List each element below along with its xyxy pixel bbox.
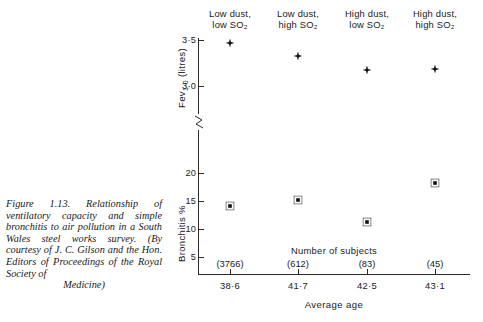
scatter-plot: 3·5 3·0 20 15 10 5 Fev1·0 (litres) Bronc… — [0, 0, 483, 322]
y-tick-label-bronchitis-20: 20 — [185, 168, 196, 178]
number-of-subjects-2: (83) — [332, 258, 402, 269]
data-point-fev-3 — [431, 65, 440, 74]
x-tick-3 — [435, 269, 436, 274]
column-header-3-line-0: High dust, — [392, 8, 478, 19]
number-of-subjects-1: (612) — [263, 258, 333, 269]
number-of-subjects-0: (3766) — [195, 258, 265, 269]
data-point-bronchitis-3 — [431, 179, 440, 188]
y-axis-title-fev-unit: (litres) — [176, 48, 187, 80]
x-tick-label-3: 43·1 — [400, 280, 470, 291]
column-header-3-line-1: high SO₂ — [392, 19, 478, 30]
data-point-fev-0 — [226, 39, 235, 48]
y-axis-title-fev-sub: 1·0 — [182, 80, 189, 91]
figure-1-13: Figure 1.13. Relationship of ventilatory… — [0, 0, 483, 322]
x-tick-label-1: 41·7 — [263, 280, 333, 291]
y-axis-title-bronchitis: Bronchitis % — [176, 205, 187, 262]
x-tick-0 — [230, 269, 231, 274]
y-axis-title-fev-main: Fev — [176, 91, 187, 108]
number-of-subjects-3: (45) — [400, 258, 470, 269]
y-axis-title-fev: Fev1·0 (litres) — [176, 48, 189, 108]
column-header-3: High dust, high SO₂ — [392, 8, 478, 31]
x-tick-label-2: 42·5 — [332, 280, 402, 291]
data-point-fev-2 — [363, 66, 372, 75]
x-tick-2 — [367, 269, 368, 274]
x-axis-line — [198, 274, 470, 275]
x-tick-label-0: 38·6 — [195, 280, 265, 291]
data-point-bronchitis-2 — [363, 218, 372, 227]
axis-break-icon — [193, 114, 205, 130]
number-of-subjects-title: Number of subjects — [198, 245, 470, 256]
data-point-fev-1 — [294, 52, 303, 61]
y-tick-label-fev-3-5: 3·5 — [182, 35, 196, 45]
data-point-bronchitis-0 — [226, 202, 235, 211]
x-axis-title: Average age — [198, 299, 470, 310]
data-point-bronchitis-1 — [294, 196, 303, 205]
y-axis-line — [198, 38, 199, 275]
x-tick-1 — [298, 269, 299, 274]
